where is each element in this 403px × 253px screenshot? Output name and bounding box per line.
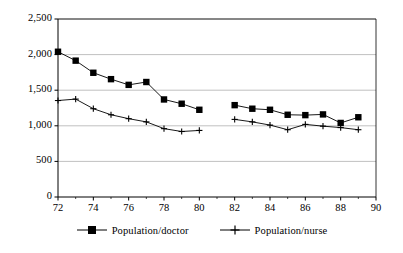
data-point-marker: [143, 119, 149, 125]
data-point-marker: [178, 101, 184, 107]
x-axis-tick-label: 86: [290, 202, 320, 213]
data-point-marker: [125, 82, 131, 88]
data-point-marker: [320, 111, 326, 117]
plot-frame: [58, 19, 376, 197]
data-point-marker: [161, 96, 167, 102]
data-point-marker: [267, 122, 273, 128]
chart-plot-area: [0, 0, 403, 253]
x-axis-tick-label: 72: [43, 202, 73, 213]
plus-marker-icon: [219, 224, 251, 236]
data-point-marker: [196, 127, 202, 133]
legend-item-population-doctor: Population/doctor: [76, 224, 189, 236]
x-axis-tick-label: 82: [220, 202, 250, 213]
data-point-marker: [196, 107, 202, 113]
data-point-marker: [179, 128, 185, 134]
x-axis-tick-label: 88: [326, 202, 356, 213]
x-axis-tick-label: 84: [255, 202, 285, 213]
y-axis-tick-label: 500: [36, 154, 52, 165]
data-point-marker: [267, 107, 273, 113]
y-axis-tick-label: 0: [47, 190, 52, 201]
legend-item-population-nurse: Population/nurse: [219, 224, 328, 236]
data-point-marker: [302, 121, 308, 127]
data-point-marker: [161, 126, 167, 132]
data-point-marker: [108, 112, 114, 118]
data-point-marker: [73, 96, 79, 102]
filled-square-marker-icon: [76, 224, 108, 236]
x-axis-tick-label: 90: [361, 202, 391, 213]
data-point-marker: [249, 106, 255, 112]
data-point-marker: [355, 114, 361, 120]
chart-legend: Population/doctor Population/nurse: [0, 224, 403, 236]
data-point-marker: [90, 106, 96, 112]
chart-container: 05001,0001,5002,0002,500 727476788082848…: [0, 0, 403, 253]
data-point-marker: [285, 127, 291, 133]
data-point-marker: [72, 57, 78, 63]
x-axis-tick-label: 74: [78, 202, 108, 213]
series-line-population-nurse: [58, 99, 199, 131]
data-point-marker: [284, 112, 290, 118]
data-point-marker: [143, 79, 149, 85]
data-point-marker: [90, 70, 96, 76]
legend-label-population-doctor: Population/doctor: [112, 225, 189, 236]
y-axis-tick-label: 1,000: [28, 119, 52, 130]
x-axis-tick-label: 78: [149, 202, 179, 213]
legend-label-population-nurse: Population/nurse: [255, 225, 328, 236]
axis-ticks-group: [55, 19, 377, 201]
data-point-marker: [108, 76, 114, 82]
data-point-marker: [126, 116, 132, 122]
data-point-marker: [320, 123, 326, 129]
data-point-marker: [231, 102, 237, 108]
y-axis-tick-label: 2,500: [28, 12, 52, 23]
data-point-marker: [55, 49, 61, 55]
x-axis-tick-label: 76: [114, 202, 144, 213]
data-point-marker: [302, 112, 308, 118]
data-point-marker: [55, 97, 61, 103]
y-axis-tick-label: 2,000: [28, 48, 52, 59]
data-point-marker: [232, 116, 238, 122]
gridlines-group: [58, 19, 376, 197]
data-point-marker: [249, 119, 255, 125]
data-series-group: [55, 49, 362, 135]
data-point-marker: [355, 127, 361, 133]
y-axis-tick-label: 1,500: [28, 83, 52, 94]
x-axis-tick-label: 80: [184, 202, 214, 213]
